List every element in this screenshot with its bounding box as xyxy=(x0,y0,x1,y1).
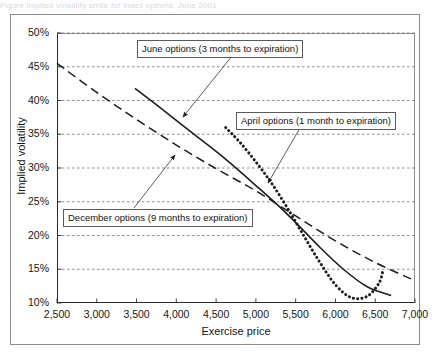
y-tick-label: 10% xyxy=(9,296,49,308)
series-line-december xyxy=(57,63,415,280)
annotation-april-options: April options (1 month to expiration) xyxy=(236,112,396,130)
y-tick-label: 15% xyxy=(9,262,49,274)
x-tick-label: 7,000 xyxy=(391,308,439,320)
figure-root: Figure Implied volatility smile for inde… xyxy=(0,0,443,360)
leader-line-june xyxy=(183,56,232,117)
y-tick-label: 45% xyxy=(9,60,49,72)
annotation-june-options: June options (3 months to expiration) xyxy=(137,40,303,58)
y-tick-label: 50% xyxy=(9,26,49,38)
y-tick-label: 20% xyxy=(9,229,49,241)
annotation-leader-lines xyxy=(134,56,300,208)
y-tick-marks xyxy=(57,33,62,303)
leader-line-april xyxy=(268,128,300,183)
y-axis-title: Implied volatility xyxy=(15,91,27,221)
gridlines xyxy=(57,33,415,269)
series-layer xyxy=(57,63,415,298)
x-axis-title: Exercise price xyxy=(57,325,415,337)
leader-line-december xyxy=(134,155,175,208)
annotation-december-options: December options (9 months to expiration… xyxy=(63,209,253,227)
